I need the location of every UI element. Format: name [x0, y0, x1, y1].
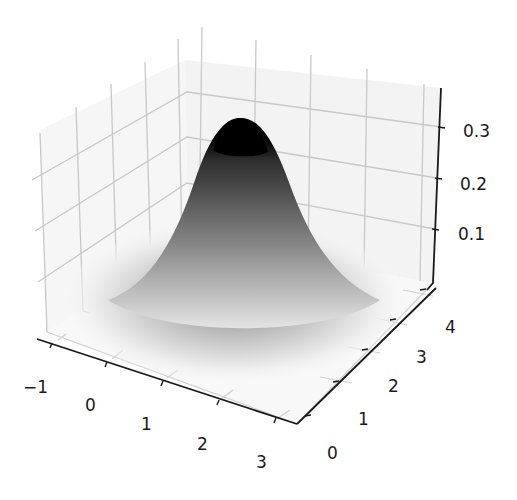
y-tick-label: 4 — [445, 317, 456, 337]
z-tick-label: 0.2 — [460, 174, 487, 194]
z-tick-label: 0.1 — [458, 224, 485, 244]
x-tick-label: 3 — [256, 452, 267, 472]
x-tick-label: 0 — [85, 395, 96, 415]
y-tick-label: 1 — [358, 409, 369, 429]
y-tick-label: 3 — [416, 347, 427, 367]
y-tick-label: 0 — [327, 443, 338, 463]
y-tick-label: 2 — [388, 376, 399, 396]
x-tick-label: 1 — [141, 414, 152, 434]
surface-plot-figure: 0.3 0.2 0.1 −1 0 1 2 3 0 1 2 3 4 — [0, 0, 517, 500]
x-tick-label: 2 — [197, 434, 208, 454]
x-tick-label: −1 — [23, 377, 48, 397]
z-axis-tick-labels: 0.3 0.2 0.1 — [458, 121, 490, 244]
z-tick-label: 0.3 — [463, 121, 490, 141]
